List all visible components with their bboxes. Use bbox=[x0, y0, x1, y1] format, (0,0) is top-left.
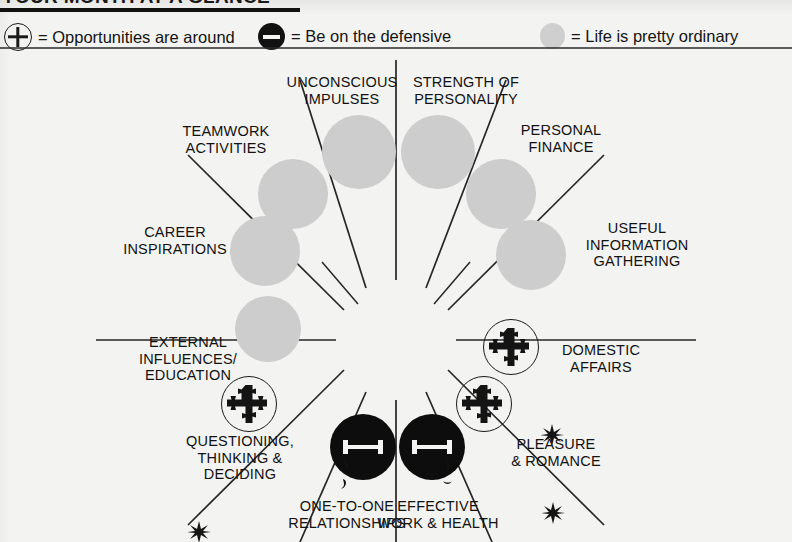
marker-gray-unconscious-impulses bbox=[322, 115, 396, 189]
marker-gray-external-influences-education bbox=[235, 296, 301, 362]
marker-gray-strength-of-personality bbox=[401, 115, 475, 189]
sector-label-one-to-one-relationships: ONE-TO-ONE RELATIONSHIPS bbox=[288, 498, 406, 531]
marker-plus-domestic-affairs bbox=[483, 319, 539, 375]
sector-label-strength-of-personality: STRENGTH OF PERSONALITY bbox=[413, 74, 519, 107]
star-spark-icon bbox=[542, 500, 566, 524]
sector-label-domestic-affairs: DOMESTIC AFFAIRS bbox=[562, 342, 640, 375]
sector-label-external-influences-education: EXTERNAL INFLUENCES/ EDUCATION bbox=[139, 334, 237, 384]
legend-label-defensive: = Be on the defensive bbox=[291, 27, 451, 46]
sector-label-unconscious-impulses: UNCONSCIOUS IMPULSES bbox=[287, 74, 398, 107]
marker-plus-questioning-thinking-deciding bbox=[221, 376, 277, 432]
maltese-cross-icon bbox=[222, 377, 276, 431]
marker-gray-useful-information-gathering bbox=[496, 220, 566, 290]
sector-label-career-inspirations: CAREER INSPIRATIONS bbox=[123, 224, 227, 257]
sector-label-pleasure-and-romance: PLEASURE & ROMANCE bbox=[511, 436, 601, 469]
title-underline bbox=[0, 8, 300, 12]
wheel-spokes bbox=[0, 46, 792, 542]
maltese-cross-icon bbox=[457, 377, 511, 431]
star-spark-icon bbox=[188, 519, 212, 542]
ink-squiggle-icon bbox=[440, 459, 456, 493]
minus-bar-icon bbox=[341, 439, 385, 455]
legend-label-ordinary: = Life is pretty ordinary bbox=[571, 27, 738, 46]
sector-label-useful-information-gathering: USEFUL INFORMATION GATHERING bbox=[586, 220, 689, 270]
sector-label-teamwork-activities: TEAMWORK ACTIVITIES bbox=[183, 123, 270, 156]
marker-plus-pleasure-and-romance bbox=[456, 376, 512, 432]
sector-label-personal-finance: PERSONAL FINANCE bbox=[521, 122, 602, 155]
maltese-cross-icon bbox=[484, 320, 538, 374]
month-at-a-glance-diagram: YOUR MONTH AT A GLANCE = Opportunities a… bbox=[0, 0, 792, 542]
ink-squiggle-icon bbox=[337, 459, 353, 493]
sector-label-questioning-thinking-deciding: QUESTIONING, THINKING & DECIDING bbox=[186, 433, 294, 483]
legend-label-opportunities: = Opportunities are around bbox=[38, 28, 235, 47]
marker-gray-career-inspirations bbox=[230, 216, 300, 286]
marker-gray-personal-finance bbox=[466, 159, 536, 229]
page-title: YOUR MONTH AT A GLANCE bbox=[0, 0, 330, 7]
minus-bar-icon bbox=[410, 439, 454, 455]
wheel-diagram: UNCONSCIOUS IMPULSES STRENGTH OF PERSONA… bbox=[0, 46, 792, 542]
